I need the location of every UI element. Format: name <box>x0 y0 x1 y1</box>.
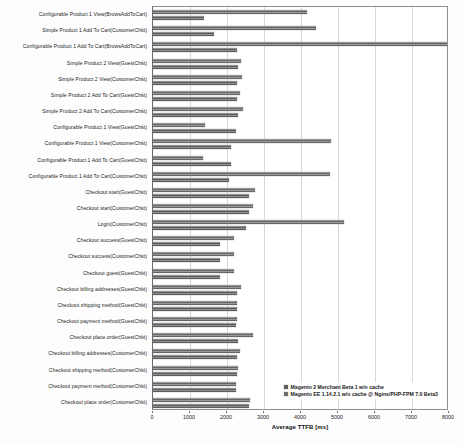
bar-row <box>153 55 447 71</box>
y-axis-tick-label: Checkout guest(GuestChkt) <box>83 270 147 276</box>
bar <box>153 162 231 166</box>
bar-row <box>153 169 447 185</box>
bar <box>153 81 237 85</box>
bar <box>153 194 249 198</box>
bar-row <box>153 72 447 88</box>
legend-label: Magento 2 Merchant Beta 1 w/o cache <box>291 384 384 390</box>
bar <box>153 188 255 192</box>
bar-row <box>153 88 447 104</box>
tick-mark <box>152 411 153 413</box>
x-axis-tick-label: 6000 <box>368 414 380 420</box>
bar <box>153 65 238 69</box>
bar-row <box>153 23 447 39</box>
y-axis-tick-label: Configurable Product 1 Add To Cart(Brows… <box>23 43 147 49</box>
bar <box>153 236 234 240</box>
bar <box>153 275 220 279</box>
bar-row <box>153 7 447 23</box>
bar <box>153 307 237 311</box>
bar-row <box>153 233 447 249</box>
y-axis-tick-label: Checkout shipping method(GuestChkt) <box>57 302 147 308</box>
bar <box>153 32 214 36</box>
bar <box>153 388 236 392</box>
bar-row <box>153 39 447 55</box>
y-axis-tick-label: Simple Product 1 Add To Cart(CustomerChk… <box>42 27 147 33</box>
x-axis-tick-label: 5000 <box>331 414 343 420</box>
y-axis-tick-label: Configurable Product 1 Add To Cart(Custo… <box>29 173 147 179</box>
x-axis-title: Average TTFB [ms] <box>152 424 448 430</box>
bar <box>153 210 249 214</box>
bar <box>153 339 238 343</box>
tick-mark <box>300 411 301 413</box>
y-axis-tick-label: Checkout place order(CustomerChkt) <box>61 399 147 405</box>
bar <box>153 172 330 176</box>
y-axis-tick-label: Checkout billing addresses(CustomerChkt) <box>48 350 147 356</box>
tick-mark <box>448 411 449 413</box>
y-axis-tick-label: Simple Product 2 View(GuestChkt) <box>67 60 147 66</box>
bar <box>153 404 249 408</box>
x-axis-ticks: 010002000300040005000600070008000 <box>152 411 448 423</box>
y-axis-tick-label: Checkout payment method(CustomerChkt) <box>48 383 147 389</box>
bar <box>153 252 234 256</box>
legend-swatch-icon <box>284 392 288 396</box>
tick-mark <box>374 411 375 413</box>
chart-legend: Magento 2 Merchant Beta 1 w/o cache Mage… <box>281 382 441 400</box>
tick-mark <box>411 411 412 413</box>
legend-label: Magento EE 1.14.2.1 w/o cache @ Nginx/PH… <box>291 391 438 397</box>
bar <box>153 156 203 160</box>
bar <box>153 285 241 289</box>
bar <box>153 59 241 63</box>
bar <box>153 42 448 46</box>
bar <box>153 123 205 127</box>
y-axis-tick-label: Simple Product 2 Add To Cart(CustomerChk… <box>42 108 147 114</box>
bar <box>153 372 237 376</box>
bar <box>153 97 237 101</box>
bar <box>153 91 240 95</box>
y-axis-tick-label: Simple Product 2 View(CustomerChkt) <box>58 76 147 82</box>
x-axis-tick-label: 1000 <box>183 414 195 420</box>
bar <box>153 355 237 359</box>
plot-area: Magento 2 Merchant Beta 1 w/o cache Mage… <box>152 6 448 410</box>
x-axis-tick-label: 8000 <box>442 414 454 420</box>
bar-row <box>153 104 447 120</box>
bar-row <box>153 185 447 201</box>
y-axis-tick-label: Checkout success(CustomerChkt) <box>68 253 147 259</box>
bar <box>153 139 331 143</box>
y-axis-tick-label: Checkout start(GuestChkt) <box>85 189 147 195</box>
x-axis-tick-label: 7000 <box>405 414 417 420</box>
bar-row <box>153 330 447 346</box>
bar <box>153 366 238 370</box>
bar <box>153 291 237 295</box>
bar-row <box>153 346 447 362</box>
y-axis-tick-label: Checkout success(GuestChkt) <box>77 237 147 243</box>
bar-row <box>153 282 447 298</box>
bar <box>153 204 253 208</box>
bar <box>153 382 236 386</box>
y-axis-tick-label: Configurable Product 1 View(BrowsAddToCa… <box>39 11 147 17</box>
bar <box>153 242 220 246</box>
bar <box>153 220 344 224</box>
bar-row <box>153 217 447 233</box>
bar-row <box>153 120 447 136</box>
bar <box>153 333 253 337</box>
bar <box>153 301 237 305</box>
bar <box>153 317 237 321</box>
y-axis-tick-label: Configurable Product 1 Add To Cart(Guest… <box>37 157 147 163</box>
bar <box>153 107 243 111</box>
legend-item: Magento 2 Merchant Beta 1 w/o cache <box>284 384 438 390</box>
y-axis-tick-label: Simple Product 2 Add To Cart(GuestChkt) <box>51 92 147 98</box>
tick-mark <box>226 411 227 413</box>
y-axis-tick-label: Configurable Product 1 View(CustomerChkt… <box>45 140 147 146</box>
y-axis-tick-label: Checkout place order(GuestChkt) <box>70 334 147 340</box>
bar-row <box>153 314 447 330</box>
x-axis-tick-label: 0 <box>151 414 154 420</box>
tick-mark <box>337 411 338 413</box>
bar <box>153 258 220 262</box>
bar <box>153 226 246 230</box>
bar-row <box>153 298 447 314</box>
bar <box>153 48 237 52</box>
bar <box>153 269 234 273</box>
y-axis-category-labels: Configurable Product 1 View(BrowsAddToCa… <box>0 6 150 410</box>
bar-row <box>153 249 447 265</box>
bar-rows <box>153 7 447 409</box>
y-axis-tick-label: Checkout start(CustomerChkt) <box>77 205 147 211</box>
